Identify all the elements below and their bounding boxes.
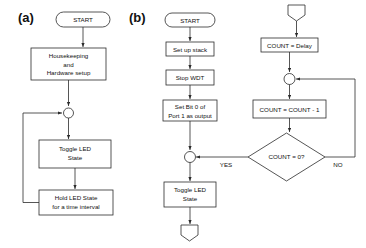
b-yes-label: YES	[220, 161, 232, 168]
b-setbit-line-1: Set Bit 0 of	[175, 103, 206, 110]
panel-b-group: START Set up stack Stop WDT Set Bit 0 of…	[163, 5, 355, 241]
b-offpage-in-connector	[288, 5, 305, 21]
b-merge-connector	[185, 152, 196, 163]
b-decision-label: COUNT = 0?	[269, 153, 305, 160]
a-hold-line-1: Hold LED State	[55, 194, 98, 201]
a-housekeeping-line-3: Hardware setup	[47, 69, 91, 76]
b-setup-stack-label: Set up stack	[173, 46, 208, 53]
panel-a-group: START Housekeeping and Hardware setup To…	[23, 12, 113, 215]
a-merge-connector	[64, 108, 74, 118]
b-toggle-line-2: State	[183, 195, 198, 202]
a-toggle-line-2: State	[68, 154, 83, 161]
a-start-label: START	[73, 16, 93, 23]
b-toggle-line-1: Toggle LED	[174, 186, 207, 193]
flowchart-svg: START Housekeeping and Hardware setup To…	[0, 0, 366, 248]
b-stop-wdt-label: Stop WDT	[176, 74, 205, 81]
b-no-label: NO	[333, 161, 342, 168]
b-start-label: START	[180, 17, 200, 24]
b-count-decrement-label: COUNT = COUNT - 1	[260, 106, 320, 113]
a-toggle-line-1: Toggle LED	[59, 145, 92, 152]
a-hold-line-2: for a time interval	[52, 203, 99, 210]
b-offpage-out-connector	[181, 225, 198, 241]
b-setbit-line-2: Port 1 as output	[168, 112, 212, 119]
a-housekeeping-line-2: and	[63, 61, 74, 68]
figure-canvas: (a) (b) START Housekeeping and Hardware …	[0, 0, 366, 248]
b-count-delay-label: COUNT = Delay	[267, 42, 313, 49]
b-loop-merge-connector	[284, 74, 295, 85]
a-housekeeping-line-1: Housekeeping	[49, 52, 89, 59]
